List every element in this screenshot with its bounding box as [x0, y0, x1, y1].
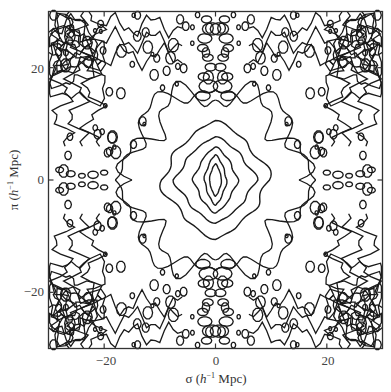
central-contour — [160, 121, 271, 240]
central-contours — [160, 121, 271, 240]
x-tick-label: 0 — [213, 353, 220, 369]
axis-ticks — [49, 12, 383, 349]
central-contour — [210, 164, 222, 197]
outer-noise-contours — [49, 10, 383, 349]
y-tick-label: −20 — [0, 284, 44, 300]
x-tick-label: 20 — [322, 353, 335, 369]
central-contour — [173, 137, 258, 223]
x-axis-symbol: σ — [185, 371, 192, 386]
y-axis-symbol: π — [6, 204, 21, 211]
y-tick-label: 20 — [0, 61, 44, 77]
x-tick-label: −20 — [96, 353, 116, 369]
central-contour — [192, 147, 238, 213]
plot-frame — [49, 12, 383, 349]
y-axis-label: π (h−1 Mpc) — [6, 150, 22, 211]
central-contour — [204, 155, 227, 206]
contour-plot — [0, 0, 391, 392]
x-axis-label: σ (h−1 Mpc) — [185, 371, 246, 387]
